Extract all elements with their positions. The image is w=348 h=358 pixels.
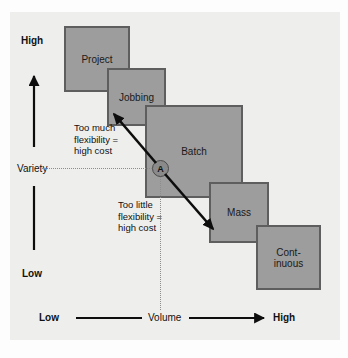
point-a-label: A (157, 164, 164, 174)
volume-guide-line (160, 168, 161, 310)
process-types-diagram: Project Jobbing Batch Mass Cont- inuous … (0, 0, 348, 358)
process-box-continuous-label-line2: inuous (274, 258, 303, 269)
process-box-batch-label: Batch (181, 146, 207, 157)
process-box-project-label: Project (81, 54, 112, 65)
annotation-too-much-line3: high cost (74, 145, 118, 157)
variety-guide-line (42, 168, 160, 169)
annotation-too-little-line3: high cost (118, 222, 162, 234)
annotation-too-little-flexibility: Too little flexibility = high cost (118, 199, 162, 234)
annotation-too-much-line2: flexibility = (74, 134, 118, 146)
annotation-too-much-flexibility: Too much flexibility = high cost (74, 122, 118, 157)
process-box-mass-label: Mass (227, 207, 251, 218)
x-axis-low-label: Low (39, 312, 59, 323)
y-axis-high-label: High (21, 35, 43, 46)
process-box-continuous-label: Cont- inuous (274, 247, 303, 269)
y-axis-low-label: Low (22, 268, 42, 279)
annotation-too-little-line1: Too little (118, 199, 162, 211)
x-axis-high-label: High (273, 312, 295, 323)
process-box-continuous-label-line1: Cont- (274, 247, 303, 258)
annotation-too-little-line2: flexibility = (118, 211, 162, 223)
process-box-jobbing-label: Jobbing (119, 92, 154, 103)
process-box-continuous[interactable]: Cont- inuous (256, 225, 321, 290)
x-axis-title: Volume (148, 312, 181, 323)
point-a-marker[interactable]: A (152, 160, 169, 177)
annotation-too-much-line1: Too much (74, 122, 118, 134)
